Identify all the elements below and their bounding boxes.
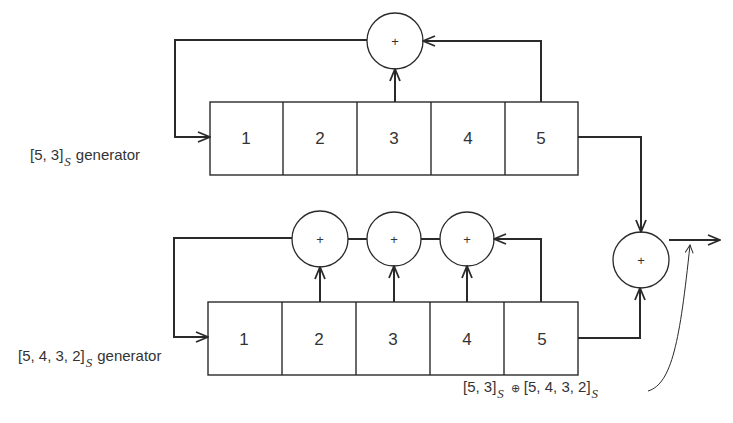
bottom-cell-3: 3	[388, 330, 397, 349]
bottom-generator-label: [5, 4, 3, 2]Sgenerator	[18, 347, 161, 365]
top-cell-5: 5	[536, 129, 545, 148]
top-cell-2: 2	[315, 129, 324, 148]
top-cell-4: 4	[463, 129, 472, 148]
top-feedback-line	[175, 40, 367, 137]
bottom-generator: 1 2 3 4 5 + + +	[174, 211, 640, 375]
output-label-pointer	[648, 245, 690, 391]
bottom-adder-3-plus: +	[463, 232, 471, 247]
combiner: +	[613, 232, 720, 391]
bottom-cell-4: 4	[462, 330, 471, 349]
top-adder-plus: +	[391, 34, 399, 49]
top-output-line	[578, 137, 641, 232]
bottom-cell-5: 5	[537, 330, 546, 349]
top-generator: 1 2 3 4 5 +	[175, 13, 641, 232]
top-tap-5-line	[423, 41, 541, 102]
bottom-cell-1: 1	[239, 330, 248, 349]
combiner-adder-plus: +	[637, 253, 645, 268]
top-generator-label: [5, 3]Sgenerator	[30, 146, 140, 164]
top-cell-3: 3	[389, 129, 398, 148]
combined-output-label: [5, 3]S⊕[5, 4, 3, 2]S	[463, 378, 601, 396]
top-cell-1: 1	[241, 129, 250, 148]
bottom-tap-5-line	[494, 239, 541, 302]
bottom-feedback-line	[174, 238, 292, 337]
bottom-cell-2: 2	[314, 330, 323, 349]
bottom-adder-1-plus: +	[316, 232, 324, 247]
bottom-output-line	[578, 288, 640, 338]
bottom-adder-2-plus: +	[390, 232, 398, 247]
